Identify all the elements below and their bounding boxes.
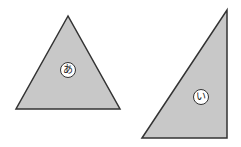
triangle-i xyxy=(142,10,227,138)
triangles-figure xyxy=(0,0,241,147)
triangle-i-label: い xyxy=(193,89,209,105)
triangle-a-label: あ xyxy=(60,62,76,78)
